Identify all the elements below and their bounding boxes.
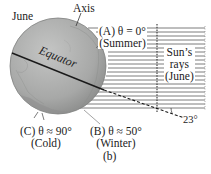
point-a-season: (Summer) — [99, 37, 146, 49]
point-c-label: (C) θ ≈ 90° (Cold) — [20, 125, 72, 149]
panel-label: (b) — [103, 150, 116, 162]
point-b-label: (B) θ ≈ 50° (Winter) — [90, 125, 142, 149]
angle-arc — [171, 108, 172, 113]
axis-label: Axis — [73, 2, 95, 14]
point-c-angle: (C) θ ≈ 90° — [20, 125, 72, 137]
sun-rays-line3: (June) — [165, 70, 194, 82]
earth-globe — [10, 18, 106, 114]
point-b-season: (Winter) — [90, 137, 142, 149]
pointer-c2 — [34, 112, 38, 118]
equator-extension-dashed — [104, 90, 190, 120]
sun-rays-label: Sun’s rays (June) — [164, 46, 195, 82]
sun-rays-line2: rays — [165, 58, 194, 70]
pointer-b — [84, 110, 100, 124]
point-a-label: (A) θ = 0° (Summer) — [98, 25, 147, 49]
point-c-season: (Cold) — [20, 137, 72, 149]
point-b-angle: (B) θ ≈ 50° — [90, 125, 142, 137]
month-label: June — [12, 10, 33, 22]
point-a-angle: (A) θ = 0° — [99, 25, 146, 37]
pointer-c — [42, 113, 44, 120]
sun-rays-line1: Sun’s — [165, 46, 194, 58]
tilt-angle-label: 23° — [183, 114, 198, 126]
